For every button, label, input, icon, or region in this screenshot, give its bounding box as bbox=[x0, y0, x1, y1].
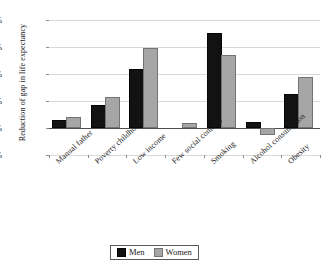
bar-women bbox=[221, 55, 236, 128]
legend-swatch-men bbox=[117, 248, 126, 257]
y-axis-tick-label: 5% bbox=[0, 96, 2, 106]
legend-entry-men: Men bbox=[117, 247, 145, 257]
x-axis-tick-mark bbox=[320, 155, 321, 158]
legend-label-men: Men bbox=[129, 247, 145, 257]
x-axis-tick-mark bbox=[204, 155, 205, 158]
y-axis-tick-label: -5% bbox=[0, 150, 2, 160]
legend-label-women: Women bbox=[166, 247, 192, 257]
x-axis-tick-mark bbox=[49, 155, 50, 158]
bar-men bbox=[246, 122, 261, 128]
bar-women bbox=[105, 97, 120, 128]
y-axis-title: Reduction of gap in life expectancy bbox=[18, 8, 27, 158]
bar-men bbox=[52, 120, 67, 128]
y-axis-tick-label: 0% bbox=[0, 123, 2, 133]
x-axis-tick-mark bbox=[165, 155, 166, 158]
chart-legend: Men Women bbox=[110, 245, 199, 260]
bar-men bbox=[91, 105, 106, 128]
bar-men bbox=[207, 33, 222, 128]
bar-women bbox=[182, 123, 197, 128]
x-axis-tick-mark bbox=[281, 155, 282, 158]
legend-swatch-women bbox=[154, 248, 163, 257]
bar-women bbox=[260, 128, 275, 135]
x-axis-tick-mark bbox=[88, 155, 89, 158]
bar-chart-figure: Reduction of gap in life expectancy 20%1… bbox=[0, 0, 324, 269]
y-axis-tick-label: 10% bbox=[0, 69, 2, 79]
y-axis-tick-label: 15% bbox=[0, 42, 2, 52]
y-axis-tick-label: 20% bbox=[0, 15, 2, 25]
x-axis-tick-mark bbox=[243, 155, 244, 158]
legend-entry-women: Women bbox=[154, 247, 192, 257]
bar-women bbox=[66, 117, 81, 128]
bar-women bbox=[143, 48, 158, 128]
x-axis-tick-mark bbox=[126, 155, 127, 158]
